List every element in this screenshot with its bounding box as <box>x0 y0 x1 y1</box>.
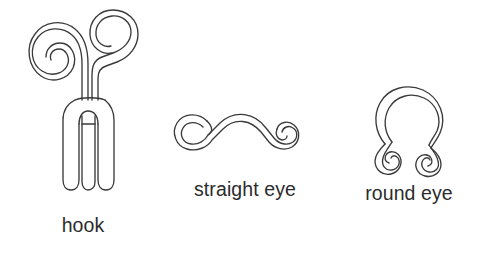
round-eye-caption: round eye <box>345 184 473 204</box>
figure-sheet: hook straight eye <box>0 0 485 276</box>
figure-hook: hook <box>18 4 148 250</box>
figure-straight-eye: straight eye <box>165 98 325 210</box>
round-eye-wire-diagram <box>345 72 473 182</box>
figure-round-eye: round eye <box>345 72 473 212</box>
hook-wire-diagram <box>18 4 148 212</box>
hook-caption: hook <box>18 216 148 236</box>
straight-eye-wire-diagram <box>165 98 325 178</box>
straight-eye-caption: straight eye <box>165 180 325 200</box>
